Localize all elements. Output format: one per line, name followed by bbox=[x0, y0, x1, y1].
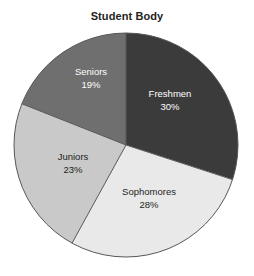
slice-label-value-seniors: 19% bbox=[81, 79, 101, 90]
pie-chart-figure: Student Body Freshmen30%Sophomores28%Jun… bbox=[0, 0, 254, 276]
slice-label-value-freshmen: 30% bbox=[160, 101, 180, 112]
slice-label-name-sophomores: Sophomores bbox=[122, 186, 176, 197]
slice-label-name-freshmen: Freshmen bbox=[149, 88, 192, 99]
slice-label-value-sophomores: 28% bbox=[139, 199, 159, 210]
pie-chart-canvas: Freshmen30%Sophomores28%Juniors23%Senior… bbox=[0, 0, 254, 276]
slice-label-name-seniors: Seniors bbox=[75, 66, 107, 77]
slice-label-name-juniors: Juniors bbox=[58, 151, 89, 162]
slice-label-value-juniors: 23% bbox=[63, 164, 83, 175]
